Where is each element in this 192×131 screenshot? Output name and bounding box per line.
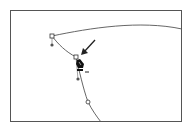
illustration-canvas bbox=[0, 0, 192, 131]
artboard-frame bbox=[11, 11, 182, 122]
anchor-point-selected[interactable] bbox=[74, 55, 78, 59]
handle-dot-top-left[interactable] bbox=[50, 43, 53, 46]
anchor-point-lower[interactable] bbox=[86, 100, 90, 104]
anchor-point-top-left[interactable] bbox=[50, 34, 54, 38]
handle-dot-lower[interactable] bbox=[76, 77, 79, 80]
